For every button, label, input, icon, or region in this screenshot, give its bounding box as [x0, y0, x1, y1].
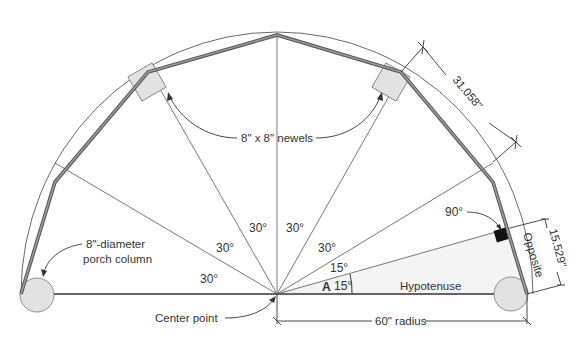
radius-label: 60" radius — [375, 315, 427, 327]
angle-label-half-lower: 15° — [334, 279, 352, 293]
newels-label: 8" x 8" newels — [241, 132, 313, 144]
porch-column-label-line1: 8"-diameter — [86, 238, 145, 250]
radial-120 — [152, 75, 277, 294]
center-point-arrowhead — [269, 296, 276, 303]
newels-leader-right — [316, 97, 380, 138]
center-point-leader — [225, 300, 273, 318]
right-angle-label: 90° — [445, 205, 463, 219]
porch-column-arrowhead — [41, 269, 47, 277]
angle-label-sector-5: 30° — [318, 241, 336, 255]
porch-column-leader — [44, 244, 82, 272]
opposite-label: Opposite — [521, 231, 546, 279]
angle-label-half-upper: 15° — [330, 261, 348, 275]
newels-leader-left — [170, 97, 237, 138]
angle-label-sector-3: 30° — [249, 221, 267, 235]
angle-label-sector-2: 30° — [216, 241, 234, 255]
side-length-label: 31.058" — [450, 74, 484, 112]
porch-column-label-line2: porch column — [83, 253, 152, 265]
radial-150 — [55, 163, 277, 294]
angle-label-sector-4: 30° — [286, 221, 304, 235]
opposite-length-label: 15.529" — [547, 227, 569, 268]
hypotenuse-label: Hypotenuse — [400, 280, 461, 292]
center-point-label: Center point — [155, 312, 218, 324]
newels-arrowhead-right — [377, 92, 383, 101]
angle-label-sector-1: 30° — [200, 272, 218, 286]
porch-railing-diagram: 31.058" 15.529" Opposite 90° 60" radius … — [0, 0, 583, 354]
newels-arrowhead-left — [167, 92, 173, 101]
right-angle-leader — [467, 212, 500, 228]
angle-marker-a: A — [322, 280, 331, 294]
